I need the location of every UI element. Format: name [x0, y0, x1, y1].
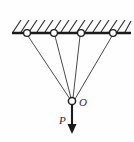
hatch-line — [13, 20, 21, 32]
cord-left-outer — [28, 36, 70, 99]
cord-right-outer — [75, 36, 112, 99]
label-o: O — [79, 96, 87, 108]
junction-point-o — [68, 97, 75, 104]
hatch-line — [37, 20, 45, 32]
hatch-line — [101, 20, 109, 32]
anchor-point-4 — [110, 30, 117, 37]
hatch-line — [125, 21, 131, 32]
hatch-line — [117, 20, 125, 32]
physics-figure: O P — [0, 0, 134, 142]
hatch-line — [69, 20, 77, 32]
cord-right-inner — [73, 36, 80, 98]
anchor-point-2 — [51, 30, 58, 37]
hatch-line — [85, 20, 93, 32]
figure-canvas: O P — [0, 0, 134, 142]
cord-group — [28, 36, 112, 99]
weight-force-arrow — [68, 103, 77, 134]
label-p: P — [58, 114, 66, 126]
arrowhead-icon — [68, 124, 77, 134]
hatch-line — [29, 20, 37, 32]
hatch-line — [93, 20, 101, 32]
anchor-point-1 — [24, 30, 31, 37]
anchor-point-3 — [78, 30, 85, 37]
hatch-line — [61, 20, 69, 32]
